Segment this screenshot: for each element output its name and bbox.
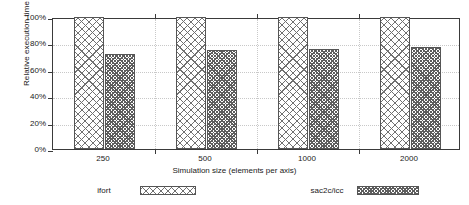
y-axis-tick-label: 20% — [30, 120, 46, 128]
x-axis-tick-label: 1000 — [298, 154, 316, 163]
y-axis-tick-mark — [48, 19, 53, 20]
bar-chart-figure: Relative execution time 0%20%40%60%80%10… — [0, 0, 469, 205]
bar — [105, 54, 135, 149]
legend-swatch — [140, 186, 196, 195]
y-axis-tick-label: 60% — [30, 67, 46, 75]
category-separator — [359, 19, 360, 149]
legend-swatch — [357, 186, 419, 195]
x-axis-tick-mark-top — [257, 14, 258, 19]
x-axis-tick-mark-top — [155, 14, 156, 19]
y-axis-tick-label: 80% — [30, 40, 46, 48]
category-separator — [257, 19, 258, 149]
y-axis-tick-mark — [48, 98, 53, 99]
plot-inner — [53, 19, 459, 149]
bar — [74, 17, 104, 149]
x-axis-tick-label: 2000 — [400, 154, 418, 163]
y-axis-tick-label: 0% — [34, 146, 46, 154]
x-axis-tick-mark-bottom — [359, 149, 360, 154]
x-axis-tick-label: 500 — [198, 154, 211, 163]
x-axis-tick-mark-bottom — [257, 149, 258, 154]
legend-label: sac2c/icc — [311, 186, 344, 195]
y-axis-tick-label: 100% — [26, 14, 46, 22]
y-axis-tick-mark — [48, 45, 53, 46]
bar — [380, 17, 410, 149]
category-separator — [155, 19, 156, 149]
bar — [278, 17, 308, 149]
bar — [207, 50, 237, 149]
x-axis-title: Simulation size (elements per axis) — [0, 166, 469, 175]
plot-area — [52, 18, 460, 150]
x-axis-tick-label: 250 — [96, 154, 109, 163]
y-axis-tick-mark — [48, 72, 53, 73]
bar — [176, 17, 206, 149]
legend-label: ifort — [97, 186, 110, 195]
y-axis-tick-label: 40% — [30, 93, 46, 101]
x-axis-tick-mark-top — [359, 14, 360, 19]
y-axis-tick-mark — [48, 151, 53, 152]
y-axis-tick-labels: 0%20%40%60%80%100% — [0, 0, 50, 160]
bar — [411, 47, 441, 149]
y-axis-tick-mark — [48, 125, 53, 126]
x-axis-tick-mark-bottom — [155, 149, 156, 154]
bar — [309, 49, 339, 149]
